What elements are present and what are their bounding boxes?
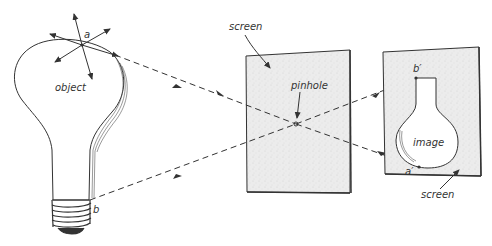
light-bulb-object	[14, 39, 127, 234]
bulb-screw-base	[52, 200, 91, 234]
pinhole-label: pinhole	[290, 80, 328, 91]
point-a-label: a	[84, 29, 90, 40]
image-label: image	[413, 137, 444, 148]
screen-2-label: screen	[421, 189, 454, 200]
screen-1-label: screen	[229, 21, 262, 32]
pinhole-camera-diagram: a object b screen pinhole image b′ a′ sc…	[0, 0, 492, 246]
pinhole-screen	[246, 50, 351, 193]
point-a-prime-label: a′	[405, 166, 414, 177]
point-b-prime-label: b′	[413, 63, 422, 74]
point-a-dot	[80, 43, 83, 46]
object-label: object	[55, 82, 87, 93]
point-a-prime-dot	[417, 165, 420, 168]
point-b-prime-dot	[414, 76, 417, 79]
point-b-label: b	[93, 204, 99, 215]
bulb-glass-outline	[14, 39, 123, 200]
